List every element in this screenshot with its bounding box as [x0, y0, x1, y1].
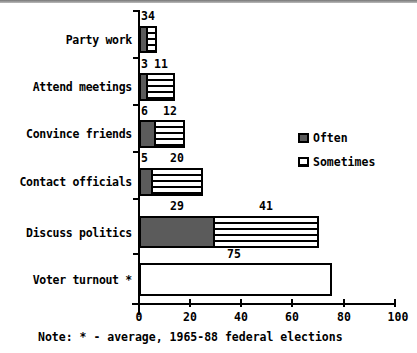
- y-tick: [133, 253, 139, 255]
- legend-often: Often: [298, 131, 348, 145]
- legend-swatch-often: [298, 133, 309, 143]
- category-label-attend-meetings: Attend meetings: [0, 80, 132, 94]
- x-tick-label: 60: [277, 310, 307, 324]
- y-tick: [133, 104, 139, 106]
- y-tick: [133, 198, 139, 200]
- legend-sometimes: Sometimes: [298, 155, 375, 169]
- value-label: 41: [259, 199, 273, 213]
- x-axis: [132, 303, 396, 305]
- value-label: 5: [141, 151, 148, 165]
- window-top-edge: [0, 0, 417, 3]
- x-tick: [343, 299, 345, 307]
- bar-attend-meetings-sometimes: [146, 73, 175, 101]
- x-tick-label: 80: [329, 310, 359, 324]
- value-label: 4: [148, 9, 155, 23]
- y-tick: [133, 151, 139, 153]
- x-tick-label: 20: [175, 310, 205, 324]
- value-label: 20: [170, 151, 184, 165]
- chart-note: Note: * - average, 1965-88 federal elect…: [38, 330, 343, 344]
- value-label: 11: [154, 57, 168, 71]
- bar-discuss-politics-often: [139, 216, 215, 248]
- value-label: 3: [141, 57, 148, 71]
- bar-voter-turnout: [139, 263, 332, 296]
- x-tick: [138, 299, 140, 307]
- value-label: 6: [141, 104, 148, 118]
- value-label: 29: [170, 199, 184, 213]
- x-tick: [394, 299, 396, 307]
- bar-contact-officials-sometimes: [151, 168, 203, 196]
- x-tick-label: 40: [226, 310, 256, 324]
- x-tick: [189, 299, 191, 307]
- x-tick-label: 100: [383, 310, 413, 324]
- category-label-convince-friends: Convince friends: [0, 127, 132, 141]
- value-label: 12: [163, 104, 177, 118]
- bar-convince-friends-sometimes: [154, 120, 185, 148]
- legend-swatch-sometimes: [298, 157, 309, 167]
- x-tick-label: 0: [124, 310, 154, 324]
- bar-party-work-sometimes: [146, 26, 157, 53]
- category-label-discuss-politics: Discuss politics: [0, 226, 132, 240]
- value-label: 75: [227, 247, 241, 261]
- category-label-party-work: Party work: [0, 33, 132, 47]
- x-tick: [240, 299, 242, 307]
- legend-label-often: Often: [313, 131, 348, 145]
- category-label-contact-officials: Contact officials: [0, 175, 132, 189]
- bar-discuss-politics-sometimes: [213, 216, 319, 248]
- y-tick: [133, 57, 139, 59]
- value-label: 3: [141, 9, 148, 23]
- legend-label-sometimes: Sometimes: [313, 155, 375, 169]
- category-label-voter-turnout: Voter turnout *: [0, 273, 132, 287]
- x-tick: [291, 299, 293, 307]
- y-tick: [133, 10, 139, 12]
